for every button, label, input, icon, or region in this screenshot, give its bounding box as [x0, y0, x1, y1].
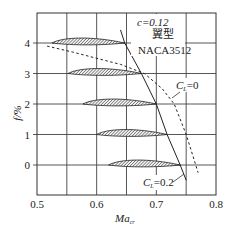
airfoils	[52, 38, 180, 167]
airfoil-name: NACA3512	[138, 44, 191, 56]
chart: 01234 0.50.60.70.8 f/% Macr c=0.12 翼型 NA…	[0, 0, 231, 226]
airfoil-shape	[83, 99, 156, 106]
airfoil-shape	[68, 69, 141, 76]
airfoil-shape	[52, 38, 125, 45]
cl0-leader	[172, 92, 180, 98]
y-tick-label: 0	[25, 159, 31, 171]
y-tick-label: 3	[25, 68, 31, 80]
x-axis-label: Macr	[114, 212, 135, 225]
airfoil-label: 翼型	[152, 27, 174, 40]
cl02-leader	[173, 174, 184, 182]
x-tick-label: 0.5	[30, 198, 44, 210]
y-tick-label: 4	[25, 37, 31, 49]
x-tick-label: 0.7	[149, 198, 163, 210]
y-tick-label: 2	[25, 98, 31, 110]
cl02-label: CL=0.2	[143, 176, 174, 189]
x-axis-label-sub: cr	[130, 219, 136, 225]
x-tick-labels: 0.50.60.70.8	[30, 198, 223, 210]
airfoil-shape	[109, 160, 181, 167]
thickness-annotation: c=0.12	[137, 16, 169, 28]
cl0-label: CL=0	[176, 79, 199, 92]
y-axis-label: f/%	[11, 105, 23, 120]
y-tick-label: 1	[25, 129, 31, 141]
x-tick-label: 0.6	[90, 198, 104, 210]
x-tick-label: 0.8	[209, 198, 223, 210]
y-tick-labels: 01234	[25, 37, 31, 171]
